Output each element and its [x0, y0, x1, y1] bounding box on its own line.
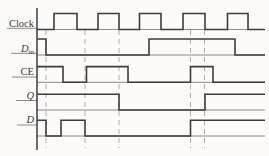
ce-label: CE: [21, 66, 34, 77]
q-waveform: [37, 94, 265, 110]
clock-waveform: [37, 14, 265, 30]
d-label: D: [25, 114, 34, 125]
q-label: Q: [26, 90, 34, 101]
clock-label: Clock: [9, 18, 35, 29]
timing-diagram: ClockDinCEQD: [0, 0, 269, 156]
din-label: Din: [20, 43, 35, 57]
timing-diagram-svg: ClockDinCEQD: [0, 0, 269, 156]
ce-waveform: [37, 67, 265, 83]
din-waveform: [37, 39, 265, 55]
d-waveform: [37, 120, 265, 136]
